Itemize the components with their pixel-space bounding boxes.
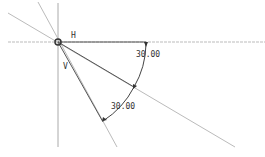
arrowhead-icon <box>144 42 148 47</box>
sketch-line-60deg[interactable] <box>58 42 103 122</box>
construction-line-60deg[interactable] <box>38 2 117 147</box>
angle-dimension-value-2[interactable]: 30.00 <box>111 102 135 111</box>
vertical-constraint-label[interactable]: V <box>63 62 68 71</box>
angle-dimension-value-1[interactable]: 30.00 <box>136 50 160 59</box>
horizontal-constraint-label[interactable]: H <box>71 31 76 40</box>
sketch-canvas[interactable]: H V 30.00 30.00 <box>0 0 265 157</box>
sketch-line-30deg[interactable] <box>58 42 134 87</box>
